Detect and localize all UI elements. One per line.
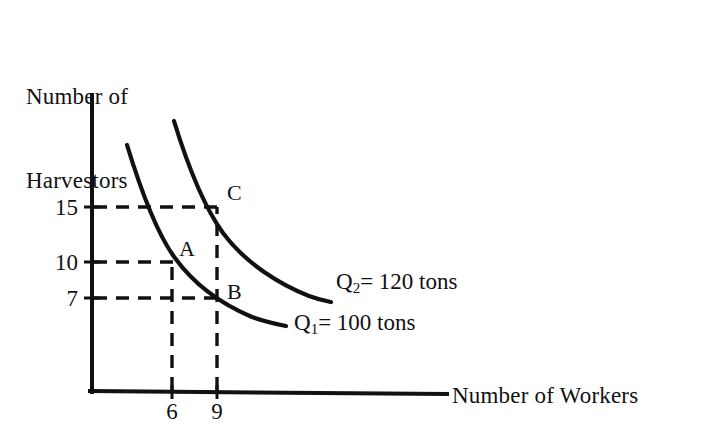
curve-label-q2: Q2= 120 tons	[336, 270, 457, 293]
x-tick-label-9: 9	[202, 400, 232, 423]
curve-label-q1-prefix: Q	[294, 310, 311, 335]
curve-label-q2-prefix: Q	[336, 269, 353, 294]
curve-label-q2-subscript: 2	[353, 280, 361, 296]
y-axis-title-line-1: Number of	[26, 83, 256, 111]
y-tick-label-10: 10	[46, 251, 78, 274]
x-axis-line	[90, 391, 447, 394]
curve-label-q2-suffix: = 120 tons	[360, 269, 457, 294]
point-label-c: C	[227, 182, 242, 204]
y-axis-title-line-2: Harvestors	[26, 167, 256, 195]
x-axis-title: Number of Workers	[452, 382, 638, 410]
x-tick-label-6: 6	[157, 400, 187, 423]
curve-label-q1-suffix: = 100 tons	[318, 310, 415, 335]
curve-label-q1-subscript: 1	[311, 321, 319, 337]
y-tick-label-15: 15	[46, 196, 78, 219]
figure-canvas: Number of Harvestors Number of Workers 1…	[0, 0, 713, 445]
curve-label-q1: Q1= 100 tons	[294, 311, 415, 334]
point-label-a: A	[179, 238, 195, 260]
y-tick-label-7: 7	[46, 287, 78, 310]
point-label-b: B	[227, 281, 242, 303]
